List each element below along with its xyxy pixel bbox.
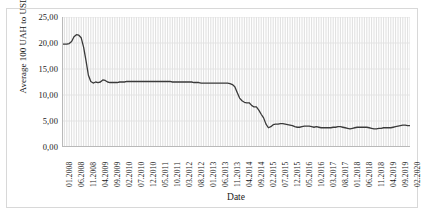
x-axis-tick-label: 11.2018 bbox=[377, 162, 386, 187]
plot-area bbox=[62, 17, 410, 147]
x-axis-tick-label: 06.2013 bbox=[221, 162, 230, 187]
x-axis-tick-label: 10.2011 bbox=[173, 162, 182, 187]
y-axis-tick-label: 15,00 bbox=[4, 64, 58, 74]
x-axis-tick-labels: 01.200806.200811.200804.200909.200902.20… bbox=[62, 148, 410, 196]
x-axis-tick-label: 02.2015 bbox=[269, 162, 278, 187]
x-axis-tick-label: 01.2008 bbox=[65, 162, 74, 187]
x-axis-tick-label: 05.2011 bbox=[161, 162, 170, 187]
x-axis-tick-label: 06.2018 bbox=[365, 162, 374, 187]
y-axis-title: Average 100 UAH to USD bbox=[18, 0, 28, 120]
x-axis-tick-label: 07.2015 bbox=[281, 162, 290, 187]
x-axis-tick-label: 03.2012 bbox=[185, 162, 194, 187]
x-axis-tick-label: 02.2010 bbox=[125, 162, 134, 187]
x-axis-tick-label: 08.2012 bbox=[197, 162, 206, 187]
y-axis-tick-label: 0,00 bbox=[4, 142, 58, 152]
x-axis-tick-label: 08.2017 bbox=[341, 162, 350, 187]
x-axis-tick-label: 11.2008 bbox=[89, 162, 98, 187]
x-axis-tick-label: 03.2017 bbox=[329, 162, 338, 187]
y-axis-tick-label: 25,00 bbox=[4, 12, 58, 22]
x-axis-tick-label: 12.2010 bbox=[149, 162, 158, 187]
x-axis-tick-label: 09.2014 bbox=[257, 162, 266, 187]
y-axis-tick-labels: 25,0020,0015,0010,005,000,00 bbox=[0, 0, 58, 165]
x-axis-tick-label: 12.2015 bbox=[293, 162, 302, 187]
x-axis-tick-label: 05.2016 bbox=[305, 162, 314, 187]
x-axis-tick-label: 06.2008 bbox=[77, 162, 86, 187]
y-axis-tick-label: 20,00 bbox=[4, 38, 58, 48]
y-axis-tick-label: 5,00 bbox=[4, 116, 58, 126]
x-axis-tick-label: 02.2020 bbox=[413, 162, 422, 187]
x-axis-tick-label: 10.2016 bbox=[317, 162, 326, 187]
x-axis-tick-label: 04.2009 bbox=[101, 162, 110, 187]
x-axis-tick-label: 07.2010 bbox=[137, 162, 146, 187]
x-axis-tick-label: 04.2019 bbox=[389, 162, 398, 187]
data-line-series bbox=[62, 17, 410, 147]
x-axis-tick-label: 09.2019 bbox=[401, 162, 410, 187]
chart-figure: 25,0020,0015,0010,005,000,00 Average 100… bbox=[0, 0, 426, 220]
x-axis-tick-label: 01.2013 bbox=[209, 162, 218, 187]
x-axis-tick-label: 01.2018 bbox=[353, 162, 362, 187]
x-axis-tick-label: 04.2014 bbox=[245, 162, 254, 187]
y-axis-tick-label: 10,00 bbox=[4, 90, 58, 100]
x-axis-title: Date bbox=[62, 192, 410, 202]
x-axis-tick-label: 11.2013 bbox=[233, 162, 242, 187]
x-axis-tick-label: 09.2009 bbox=[113, 162, 122, 187]
